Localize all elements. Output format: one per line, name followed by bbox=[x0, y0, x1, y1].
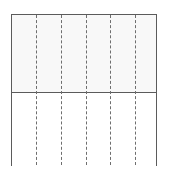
lower-band-region bbox=[12, 93, 156, 167]
upper-band-region bbox=[12, 15, 156, 93]
diagram-canvas bbox=[0, 0, 169, 175]
figure-frame bbox=[11, 14, 157, 166]
